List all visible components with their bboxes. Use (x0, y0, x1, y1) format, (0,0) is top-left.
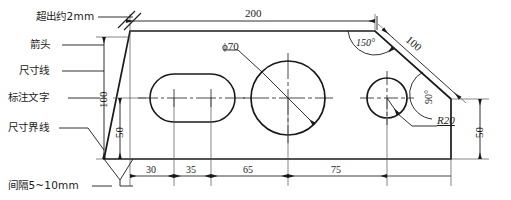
dim-circle-diameter: ϕ70 (222, 41, 239, 52)
label-overshoot: 超出约2mm (36, 11, 94, 22)
gap-leader (104, 159, 133, 186)
dim-top-overall: 200 (245, 8, 262, 19)
dim-right-height: 50 (474, 127, 485, 138)
dim-bottom-2: 35 (186, 165, 196, 175)
dim-bottom-3: 65 (243, 165, 253, 175)
label-extension-line: 尺寸界线 (8, 122, 49, 133)
label-dimension-text: 标注文字 (8, 92, 49, 103)
dim-angle-right: 90° (424, 90, 434, 104)
dim-angle-top: 150° (356, 38, 375, 48)
label-arrowhead: 箭头 (30, 39, 50, 50)
label-gap: 间隔5~10mm (8, 180, 79, 191)
center-lines (138, 53, 414, 143)
dim-bottom-4: 75 (331, 165, 341, 175)
extension-lines-bottom (130, 31, 451, 186)
part-outline (104, 31, 451, 159)
break-symbol (118, 11, 141, 30)
label-dimension-line: 尺寸线 (19, 65, 50, 76)
drawing-canvas (0, 0, 511, 200)
dim-bottom-1: 30 (146, 165, 156, 175)
dim-circle-radius: R20 (437, 115, 455, 126)
dim-left-height: 100 (98, 92, 109, 109)
annotation-leaders (59, 17, 133, 186)
dim-left-inner-height: 50 (114, 127, 125, 138)
diameter-leader-phi70 (223, 50, 314, 124)
technical-drawing-figure: 超出约2mm 箭头 尺寸线 标注文字 尺寸界线 间隔5~10mm 200 100… (0, 0, 511, 200)
slant-dimension-100 (378, 24, 466, 103)
